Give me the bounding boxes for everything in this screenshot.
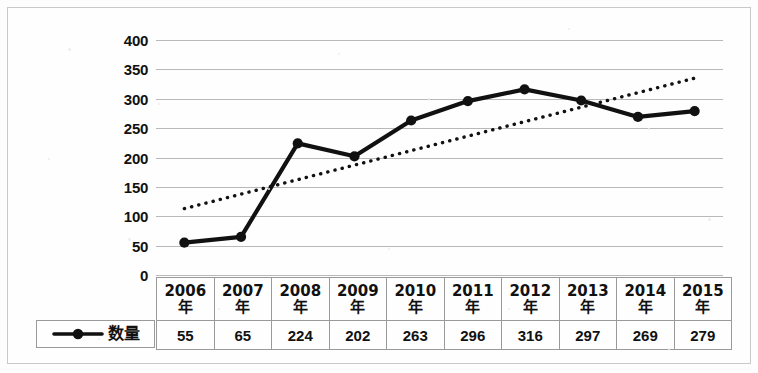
year-number: 2008 <box>272 283 329 299</box>
table-value-cell: 55 <box>157 321 215 350</box>
year-number: 2011 <box>445 283 502 299</box>
data-point-marker <box>463 96 473 106</box>
y-tick-400: 400 <box>124 33 148 48</box>
table-header-cell: 2008 年 <box>272 278 330 321</box>
table-header-cell: 2010 年 <box>387 278 445 321</box>
year-suffix: 年 <box>330 299 387 315</box>
scan-speckle <box>48 158 50 160</box>
table-header-cell: 2006 年 <box>157 278 215 321</box>
y-tick-50: 50 <box>132 238 148 253</box>
data-point-marker <box>236 232 246 242</box>
table-value-cell: 202 <box>329 321 387 350</box>
y-tick-200: 200 <box>124 150 148 165</box>
table-value-row: 55 65 224 202 263 296 316 297 269 279 <box>157 321 732 350</box>
year-number: 2006 <box>157 283 214 299</box>
y-tick-0: 0 <box>140 268 148 283</box>
scan-speckle <box>568 28 570 30</box>
data-point-marker <box>179 238 189 248</box>
year-number: 2015 <box>675 283 732 299</box>
year-number: 2014 <box>617 283 674 299</box>
data-point-marker <box>576 95 586 105</box>
year-suffix: 年 <box>502 299 559 315</box>
year-suffix: 年 <box>445 299 502 315</box>
data-point-marker <box>633 112 643 122</box>
table-header-cell: 2011 年 <box>444 278 502 321</box>
data-point-marker <box>349 151 359 161</box>
table-header-cell: 2009 年 <box>329 278 387 321</box>
table-value-cell: 224 <box>272 321 330 350</box>
legend-label: 数量 <box>108 326 140 342</box>
year-suffix: 年 <box>617 299 674 315</box>
year-suffix: 年 <box>215 299 272 315</box>
chart-frame: 400 350 300 250 200 150 100 50 0 <box>7 7 751 364</box>
data-point-marker <box>406 115 416 125</box>
table-value-cell: 65 <box>214 321 272 350</box>
year-number: 2009 <box>330 283 387 299</box>
year-number: 2013 <box>560 283 617 299</box>
legend-line-marker-icon <box>52 327 104 341</box>
year-number: 2007 <box>215 283 272 299</box>
year-number: 2012 <box>502 283 559 299</box>
table-value-cell: 297 <box>559 321 617 350</box>
legend: 数量 <box>36 320 155 348</box>
gridline-0 <box>156 275 723 276</box>
y-axis: 400 350 300 250 200 150 100 50 0 <box>104 30 148 286</box>
y-tick-150: 150 <box>124 179 148 194</box>
table-header-cell: 2013 年 <box>559 278 617 321</box>
year-suffix: 年 <box>387 299 444 315</box>
y-tick-100: 100 <box>124 209 148 224</box>
table-value-cell: 279 <box>674 321 732 350</box>
data-point-marker <box>293 138 303 148</box>
data-point-marker <box>690 106 700 116</box>
table-value-cell: 296 <box>444 321 502 350</box>
table-value-cell: 269 <box>617 321 675 350</box>
table-header-cell: 2014 年 <box>617 278 675 321</box>
data-series-quantity <box>156 40 723 275</box>
scan-speckle <box>68 48 71 51</box>
table-header-cell: 2012 年 <box>502 278 560 321</box>
year-number: 2010 <box>387 283 444 299</box>
y-tick-350: 350 <box>124 62 148 77</box>
year-suffix: 年 <box>272 299 329 315</box>
data-point-marker <box>519 84 529 94</box>
table-header-row: 2006 年 2007 年 2008 年 2009 年 <box>157 278 732 321</box>
data-table: 2006 年 2007 年 2008 年 2009 年 <box>156 277 732 350</box>
table-header-cell: 2007 年 <box>214 278 272 321</box>
y-tick-300: 300 <box>124 91 148 106</box>
table-header-cell: 2015 年 <box>674 278 732 321</box>
year-suffix: 年 <box>675 299 732 315</box>
chart-screenshot: 400 350 300 250 200 150 100 50 0 <box>0 0 758 373</box>
plot-area <box>156 40 723 275</box>
y-tick-250: 250 <box>124 121 148 136</box>
table-value-cell: 316 <box>502 321 560 350</box>
table-value-cell: 263 <box>387 321 445 350</box>
year-suffix: 年 <box>560 299 617 315</box>
year-suffix: 年 <box>157 299 214 315</box>
